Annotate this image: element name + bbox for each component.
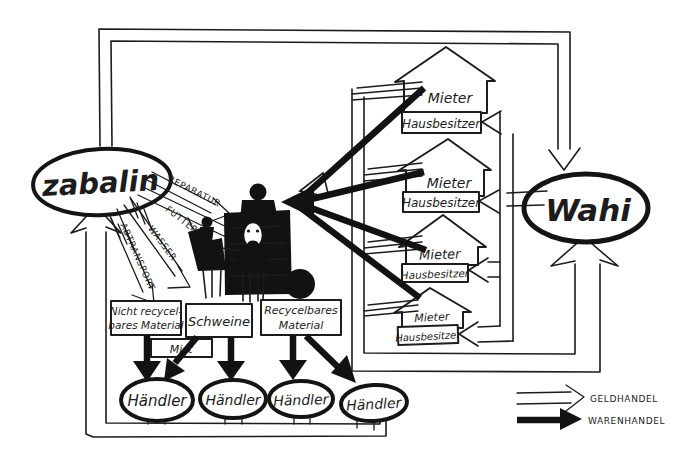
open-arrowhead-icon — [168, 266, 190, 288]
money-loop-zabalin-to-wahi — [99, 29, 580, 170]
wahi-label: Wahi — [545, 192, 631, 228]
owner-label-3: Hausbesitzer — [400, 267, 469, 281]
money-arrow-sample — [517, 392, 571, 404]
second-donkey-legs — [203, 268, 221, 298]
tenant-label-2: Mieter — [427, 175, 473, 191]
non-recyclable-label: bares Material — [108, 319, 183, 331]
owner-label-2: Hausbesitzer — [402, 196, 481, 210]
material-boxes: Nicht recycel- bares Material Schweine R… — [108, 300, 341, 357]
trader-label-1: Händler — [127, 392, 187, 410]
money-line — [111, 41, 558, 149]
zabalin-economy-diagram: Mieter Hausbesitzer Mieter Hausbesitzer … — [0, 0, 680, 466]
traders-row: Händler Händler Händler Händler — [121, 379, 408, 423]
solid-arrowhead-down-icon — [279, 360, 307, 380]
donkey-body — [236, 247, 269, 272]
pigs-label: Schweine — [188, 314, 250, 329]
solid-arrowhead-right-icon — [560, 408, 582, 430]
open-arrowhead-down-icon — [549, 148, 580, 170]
open-arrowhead-right-icon — [566, 385, 584, 411]
scanned-diagram-page: Mieter Hausbesitzer Mieter Hausbesitzer … — [0, 0, 680, 466]
legend-goods-label: WARENHANDEL — [588, 416, 665, 426]
owner-3-spur — [488, 262, 500, 277]
goods-line-diagonal — [306, 336, 340, 369]
helper-head — [202, 217, 213, 228]
legend: GELDHANDEL WARENHANDEL — [517, 385, 665, 430]
trader-label-4: Händler — [346, 395, 403, 414]
legend-money-label: GELDHANDEL — [590, 394, 658, 404]
open-arrowhead-left-icon — [482, 111, 501, 134]
donkey-eye — [247, 229, 250, 232]
trader-label-3: Händler — [273, 391, 330, 409]
driver-head — [250, 184, 267, 201]
solid-arrowhead-down-icon — [217, 361, 245, 381]
owner-4-spur — [478, 326, 513, 342]
tenant-label-4: Mieter — [414, 310, 451, 325]
owner-label-1: Hausbesitzer — [402, 117, 481, 131]
recyclable-label: Material — [279, 319, 324, 332]
actor-wahi: Wahi — [507, 174, 648, 242]
goods-line-house-4 — [301, 208, 420, 298]
channel-line — [500, 112, 513, 341]
trader-label-2: Händler — [205, 392, 261, 408]
recyclable-label: Recycelbares — [264, 304, 338, 317]
cart-wheel — [285, 269, 315, 299]
non-recyclable-label: Nicht recycel- — [110, 305, 183, 317]
donkey-eye — [256, 229, 259, 232]
tenant-label-1: Mieter — [428, 90, 474, 106]
repair-label: REPARATUR — [166, 174, 222, 209]
